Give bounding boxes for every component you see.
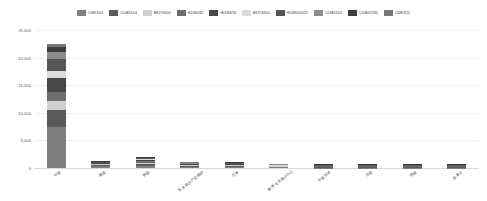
legend-item[interactable]: C08K3/22	[384, 10, 410, 16]
legend-item[interactable]: B82Y30/00	[143, 10, 171, 16]
x-label-slot: 世界知识产权组织	[168, 169, 213, 201]
legend-swatch-icon	[348, 10, 357, 16]
x-axis-labels: 中国美国韩国世界知识产权组织日本欧洲专利局(EPO)中国台湾印度德国加拿大	[34, 169, 479, 201]
stacked-bar[interactable]	[314, 164, 333, 168]
legend-label: H01M4/62	[188, 10, 204, 16]
x-label-slot: 印度	[346, 169, 391, 201]
legend-swatch-icon	[109, 10, 118, 16]
legend-item[interactable]: C08K3/04	[77, 10, 103, 16]
bar-segment[interactable]	[47, 92, 66, 100]
bar-segment[interactable]	[47, 110, 66, 127]
y-axis-tick-label: 15,000	[18, 83, 31, 88]
legend-swatch-icon	[77, 10, 86, 16]
x-label-slot: 加拿大	[435, 169, 480, 201]
stacked-bar[interactable]	[403, 164, 422, 168]
bar-segment[interactable]	[47, 59, 66, 71]
bar-slot	[123, 30, 168, 168]
x-label-slot: 欧洲专利局(EPO)	[257, 169, 302, 201]
stacked-bar[interactable]	[136, 157, 155, 168]
legend-swatch-icon	[143, 10, 152, 16]
bar-segment[interactable]	[136, 166, 155, 168]
legend-swatch-icon	[242, 10, 251, 16]
bar-slot	[79, 30, 124, 168]
bar-segment[interactable]	[47, 52, 66, 59]
bar-segment[interactable]	[269, 167, 288, 168]
x-axis-tick-label: 世界知识产权组织	[177, 170, 205, 193]
legend-label: C08K3/04	[88, 10, 103, 16]
legend-item[interactable]: C01B32/184	[348, 10, 378, 16]
bar-segment[interactable]	[47, 78, 66, 92]
stacked-bar[interactable]	[91, 161, 110, 168]
stacked-bar[interactable]	[225, 162, 244, 168]
legend-label: B82Y40/00	[253, 10, 270, 16]
x-axis-tick-label: 中国台湾	[317, 170, 332, 183]
legend-item[interactable]: H01M4/36	[209, 10, 236, 16]
bar-group	[34, 30, 479, 168]
x-axis-tick-label: 印度	[365, 170, 374, 178]
bar-segment[interactable]	[180, 167, 199, 168]
bar-slot	[390, 30, 435, 168]
legend-label: H01M10/0525	[287, 10, 308, 16]
y-axis-tick-label: 20,000	[18, 55, 31, 60]
stacked-bar[interactable]	[47, 44, 66, 168]
legend-label: C01B31/02	[325, 10, 342, 16]
x-axis-tick-label: 韩国	[142, 170, 151, 178]
legend-label: C01B32/184	[359, 10, 378, 16]
bar-segment[interactable]	[91, 166, 110, 168]
legend-swatch-icon	[177, 10, 186, 16]
x-axis-tick-label: 美国	[98, 170, 107, 178]
bar-slot	[168, 30, 213, 168]
legend-item[interactable]: H01M10/0525	[276, 10, 308, 16]
bar-segment[interactable]	[225, 167, 244, 168]
plot-area: 05,00010,00015,00020,00025,000	[34, 30, 479, 168]
stacked-bar[interactable]	[180, 162, 199, 168]
bar-segment[interactable]	[47, 101, 66, 110]
x-label-slot: 韩国	[123, 169, 168, 201]
legend-item[interactable]: C01B31/04	[109, 10, 137, 16]
legend-label: C01B31/04	[120, 10, 137, 16]
chart-legend: C08K3/04C01B31/04B82Y30/00H01M4/62H01M4/…	[0, 10, 487, 16]
x-label-slot: 美国	[79, 169, 124, 201]
bar-slot	[257, 30, 302, 168]
y-axis-tick-label: 5,000	[21, 138, 31, 143]
x-axis-tick-label: 德国	[409, 170, 418, 178]
legend-label: C08K3/22	[395, 10, 410, 16]
stacked-bar[interactable]	[269, 164, 288, 168]
bar-slot	[34, 30, 79, 168]
legend-item[interactable]: B82Y40/00	[242, 10, 270, 16]
legend-swatch-icon	[314, 10, 323, 16]
legend-swatch-icon	[276, 10, 285, 16]
stacked-bar[interactable]	[358, 164, 377, 168]
bar-segment[interactable]	[47, 127, 66, 168]
bar-slot	[435, 30, 480, 168]
bar-slot	[346, 30, 391, 168]
x-label-slot: 日本	[212, 169, 257, 201]
x-axis-tick-label: 加拿大	[452, 170, 464, 181]
x-label-slot: 中国台湾	[301, 169, 346, 201]
x-axis-tick-label: 欧洲专利局(EPO)	[267, 170, 293, 192]
y-axis-tick-label: 25,000	[18, 28, 31, 33]
bar-slot	[212, 30, 257, 168]
stacked-bar[interactable]	[447, 164, 466, 168]
legend-label: H01M4/36	[220, 10, 236, 16]
y-axis-tick-label: 10,000	[18, 110, 31, 115]
x-label-slot: 中国	[34, 169, 79, 201]
chart-container: C08K3/04C01B31/04B82Y30/00H01M4/62H01M4/…	[0, 0, 487, 201]
x-axis-tick-label: 中国	[53, 170, 62, 178]
legend-label: B82Y30/00	[154, 10, 171, 16]
x-axis-tick-label: 日本	[231, 170, 240, 178]
bar-segment[interactable]	[47, 71, 66, 78]
legend-item[interactable]: C01B31/02	[314, 10, 342, 16]
bar-slot	[301, 30, 346, 168]
y-axis-tick-label: 0	[29, 166, 31, 171]
x-label-slot: 德国	[390, 169, 435, 201]
legend-swatch-icon	[384, 10, 393, 16]
legend-swatch-icon	[209, 10, 218, 16]
legend-item[interactable]: H01M4/62	[177, 10, 204, 16]
